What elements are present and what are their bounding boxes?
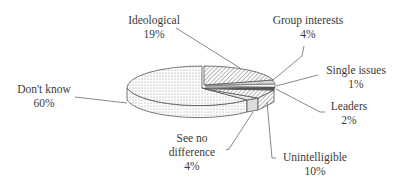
label-group-interests: Group interests 4% bbox=[262, 13, 354, 41]
label-pct: 19% bbox=[116, 27, 192, 41]
label-leaders: Leaders 2% bbox=[325, 99, 373, 127]
label-name-line2: difference bbox=[160, 145, 224, 159]
label-pct: 4% bbox=[160, 159, 224, 173]
label-pct: 1% bbox=[318, 77, 394, 91]
label-name: Group interests bbox=[262, 13, 354, 27]
label-see-no-difference: See no difference 4% bbox=[160, 131, 224, 173]
label-dont-know: Don't know 60% bbox=[12, 82, 76, 110]
label-unintelligible: Unintelligible 10% bbox=[278, 150, 352, 178]
label-pct: 2% bbox=[325, 113, 373, 127]
label-ideological: Ideological 19% bbox=[116, 13, 192, 41]
label-pct: 10% bbox=[278, 164, 352, 178]
label-pct: 4% bbox=[262, 27, 354, 41]
label-name: Ideological bbox=[116, 13, 192, 27]
label-name: Don't know bbox=[12, 82, 76, 96]
label-name: Leaders bbox=[325, 99, 373, 113]
label-single-issues: Single issues 1% bbox=[318, 63, 394, 91]
label-name-line1: See no bbox=[160, 131, 224, 145]
label-pct: 60% bbox=[12, 96, 76, 110]
label-name: Single issues bbox=[318, 63, 394, 77]
label-name: Unintelligible bbox=[278, 150, 352, 164]
